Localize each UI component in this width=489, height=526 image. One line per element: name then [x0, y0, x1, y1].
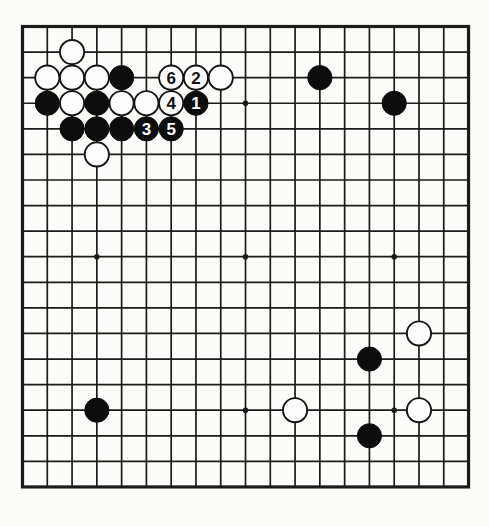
white-stone — [60, 66, 84, 90]
move-number-label: 3 — [142, 120, 151, 139]
move-number-label: 2 — [191, 69, 200, 88]
star-point — [243, 254, 249, 260]
black-stone — [357, 424, 381, 448]
white-stone — [209, 66, 233, 90]
star-point — [391, 254, 397, 260]
go-board-diagram: 624135 — [0, 0, 489, 526]
black-stone — [85, 398, 109, 422]
white-stone — [85, 142, 109, 166]
star-point — [243, 407, 249, 413]
white-stone — [85, 66, 109, 90]
star-point — [243, 100, 249, 106]
move-number-label: 1 — [191, 94, 200, 113]
white-stone — [35, 66, 59, 90]
move-number-label: 6 — [166, 69, 175, 88]
white-stone — [110, 91, 134, 115]
black-stone — [85, 91, 109, 115]
move-number-label: 5 — [166, 120, 175, 139]
star-point — [391, 407, 397, 413]
move-number-label: 4 — [166, 94, 176, 113]
black-stone — [110, 66, 134, 90]
black-stone — [308, 66, 332, 90]
scanned-book-page: 624135 — [0, 0, 489, 526]
white-stone — [283, 398, 307, 422]
white-stone — [407, 321, 431, 345]
white-stone — [60, 91, 84, 115]
black-stone — [357, 347, 381, 371]
black-stone — [382, 91, 406, 115]
black-stone — [110, 117, 134, 141]
black-stone — [85, 117, 109, 141]
white-stone — [134, 91, 158, 115]
star-point — [94, 254, 100, 260]
white-stone — [60, 40, 84, 64]
black-stone — [60, 117, 84, 141]
white-stone — [407, 398, 431, 422]
black-stone — [35, 91, 59, 115]
